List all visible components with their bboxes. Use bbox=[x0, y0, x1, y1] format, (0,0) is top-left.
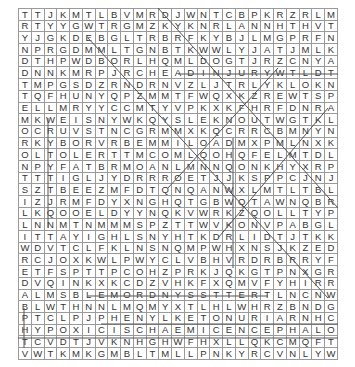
grid-cell[interactable]: E bbox=[261, 149, 274, 161]
grid-cell[interactable]: N bbox=[121, 336, 134, 348]
grid-cell[interactable]: K bbox=[82, 254, 95, 266]
grid-cell[interactable]: T bbox=[95, 20, 108, 32]
grid-cell[interactable]: M bbox=[133, 9, 146, 21]
grid-cell[interactable]: D bbox=[70, 44, 83, 56]
grid-cell[interactable]: M bbox=[70, 67, 83, 79]
grid-cell[interactable]: O bbox=[235, 114, 248, 126]
grid-cell[interactable]: V bbox=[172, 102, 185, 114]
grid-cell[interactable]: G bbox=[133, 44, 146, 56]
grid-cell[interactable]: D bbox=[19, 55, 32, 67]
grid-cell[interactable]: R bbox=[210, 20, 223, 32]
grid-cell[interactable]: G bbox=[70, 20, 83, 32]
grid-cell[interactable]: T bbox=[31, 266, 44, 278]
grid-cell[interactable]: M bbox=[108, 184, 121, 196]
grid-cell[interactable]: M bbox=[235, 277, 248, 289]
grid-cell[interactable]: C bbox=[108, 102, 121, 114]
grid-cell[interactable]: E bbox=[159, 67, 172, 79]
grid-cell[interactable]: H bbox=[172, 277, 185, 289]
grid-cell[interactable]: W bbox=[70, 55, 83, 67]
grid-cell[interactable]: L bbox=[286, 137, 299, 149]
grid-cell[interactable]: T bbox=[31, 231, 44, 243]
grid-cell[interactable]: J bbox=[210, 79, 223, 91]
grid-cell[interactable]: D bbox=[197, 55, 210, 67]
grid-cell[interactable]: P bbox=[197, 242, 210, 254]
grid-cell[interactable]: Q bbox=[146, 114, 159, 126]
grid-cell[interactable]: L bbox=[325, 114, 338, 126]
grid-cell[interactable]: R bbox=[261, 301, 274, 313]
grid-cell[interactable]: D bbox=[57, 336, 70, 348]
grid-cell[interactable]: Q bbox=[223, 266, 236, 278]
grid-cell[interactable]: G bbox=[197, 196, 210, 208]
grid-cell[interactable]: O bbox=[108, 55, 121, 67]
grid-cell[interactable]: W bbox=[223, 196, 236, 208]
grid-cell[interactable]: R bbox=[261, 254, 274, 266]
grid-cell[interactable]: H bbox=[197, 336, 210, 348]
grid-cell[interactable]: R bbox=[133, 172, 146, 184]
grid-cell[interactable]: W bbox=[197, 90, 210, 102]
grid-cell[interactable]: A bbox=[146, 160, 159, 172]
grid-cell[interactable]: Z bbox=[133, 90, 146, 102]
grid-cell[interactable]: C bbox=[223, 125, 236, 137]
grid-cell[interactable]: S bbox=[82, 114, 95, 126]
grid-cell[interactable]: M bbox=[261, 32, 274, 44]
grid-cell[interactable]: R bbox=[235, 254, 248, 266]
grid-cell[interactable]: H bbox=[274, 20, 287, 32]
grid-cell[interactable]: W bbox=[274, 114, 287, 126]
grid-cell[interactable]: A bbox=[19, 289, 32, 301]
grid-cell[interactable]: M bbox=[146, 137, 159, 149]
grid-cell[interactable]: R bbox=[286, 254, 299, 266]
grid-cell[interactable]: V bbox=[95, 336, 108, 348]
grid-cell[interactable]: N bbox=[31, 219, 44, 231]
grid-cell[interactable]: R bbox=[261, 102, 274, 114]
grid-cell[interactable]: K bbox=[325, 137, 338, 149]
grid-cell[interactable]: T bbox=[19, 336, 32, 348]
grid-cell[interactable]: T bbox=[70, 219, 83, 231]
grid-cell[interactable]: A bbox=[197, 184, 210, 196]
grid-cell[interactable]: E bbox=[82, 184, 95, 196]
grid-cell[interactable]: F bbox=[184, 336, 197, 348]
grid-cell[interactable]: M bbox=[299, 44, 312, 56]
grid-cell[interactable]: P bbox=[274, 324, 287, 336]
grid-cell[interactable]: R bbox=[121, 55, 134, 67]
grid-cell[interactable]: P bbox=[108, 266, 121, 278]
grid-cell[interactable]: I bbox=[82, 231, 95, 243]
grid-cell[interactable]: O bbox=[261, 207, 274, 219]
grid-cell[interactable]: W bbox=[274, 196, 287, 208]
grid-cell[interactable]: L bbox=[197, 301, 210, 313]
grid-cell[interactable]: M bbox=[70, 9, 83, 21]
grid-cell[interactable]: L bbox=[312, 44, 325, 56]
grid-cell[interactable]: L bbox=[31, 102, 44, 114]
grid-cell[interactable]: M bbox=[121, 219, 134, 231]
grid-cell[interactable]: M bbox=[133, 20, 146, 32]
grid-cell[interactable]: N bbox=[44, 67, 57, 79]
grid-cell[interactable]: G bbox=[325, 301, 338, 313]
grid-cell[interactable]: T bbox=[70, 336, 83, 348]
grid-cell[interactable]: D bbox=[133, 79, 146, 91]
grid-cell[interactable]: M bbox=[184, 324, 197, 336]
grid-cell[interactable]: S bbox=[57, 266, 70, 278]
grid-cell[interactable]: Q bbox=[44, 207, 57, 219]
grid-cell[interactable]: J bbox=[325, 172, 338, 184]
grid-cell[interactable]: L bbox=[121, 231, 134, 243]
grid-cell[interactable]: J bbox=[44, 9, 57, 21]
grid-cell[interactable]: Y bbox=[172, 20, 185, 32]
grid-cell[interactable]: T bbox=[19, 90, 32, 102]
grid-cell[interactable]: D bbox=[184, 67, 197, 79]
grid-cell[interactable]: E bbox=[261, 324, 274, 336]
grid-cell[interactable]: Q bbox=[210, 125, 223, 137]
grid-cell[interactable]: K bbox=[197, 32, 210, 44]
grid-cell[interactable]: L bbox=[184, 114, 197, 126]
grid-cell[interactable]: P bbox=[31, 44, 44, 56]
grid-cell[interactable]: R bbox=[44, 125, 57, 137]
grid-cell[interactable]: K bbox=[286, 242, 299, 254]
grid-cell[interactable]: P bbox=[121, 254, 134, 266]
grid-cell[interactable]: C bbox=[274, 336, 287, 348]
grid-cell[interactable]: R bbox=[248, 312, 261, 324]
grid-cell[interactable]: R bbox=[299, 9, 312, 21]
grid-cell[interactable]: E bbox=[172, 324, 185, 336]
grid-cell[interactable]: F bbox=[95, 242, 108, 254]
grid-cell[interactable]: F bbox=[312, 32, 325, 44]
grid-cell[interactable]: R bbox=[70, 102, 83, 114]
grid-cell[interactable]: K bbox=[184, 44, 197, 56]
grid-cell[interactable]: E bbox=[184, 172, 197, 184]
